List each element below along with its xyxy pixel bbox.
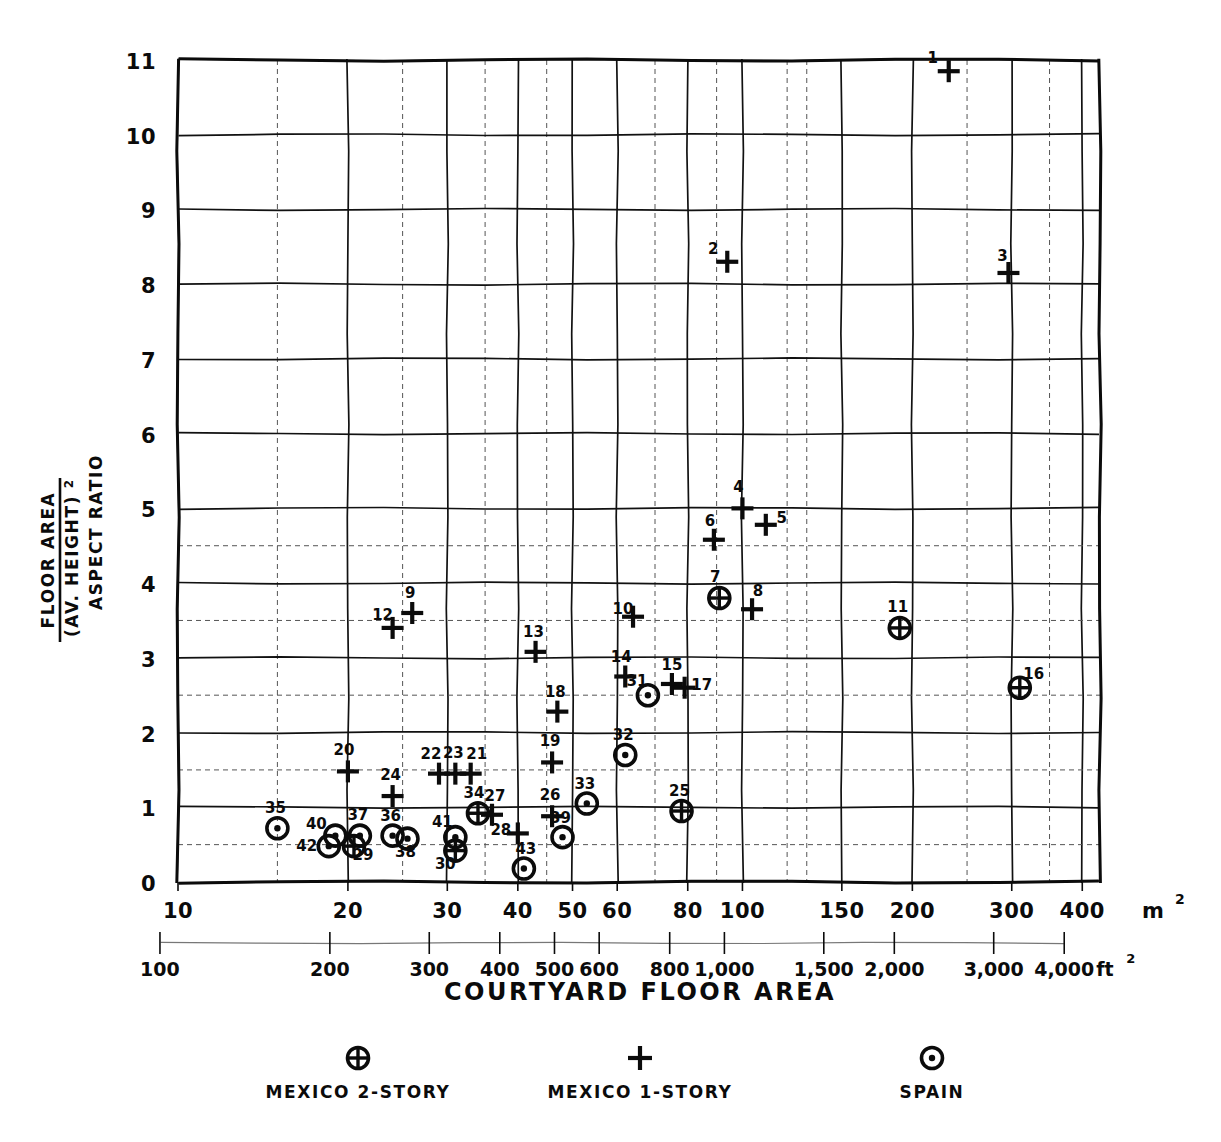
data-point-16[interactable]: 16 xyxy=(1009,665,1044,699)
y-tick-label-4: 4 xyxy=(141,573,156,597)
data-point-label-38: 38 xyxy=(395,843,416,861)
x-tick-label-60: 60 xyxy=(602,899,632,923)
data-point-label-6: 6 xyxy=(705,512,715,530)
ft2-tick-label-1000: 1,000 xyxy=(694,958,754,980)
data-point-35[interactable]: 35 xyxy=(265,799,288,839)
axis-line-left xyxy=(177,59,179,883)
ft2-tick-label-500: 500 xyxy=(535,958,575,980)
data-point-label-22: 22 xyxy=(421,745,442,763)
legend-entry-spain[interactable]: SPAIN xyxy=(900,1048,965,1103)
y-title-denominator: (AV. HEIGHT) xyxy=(62,495,82,637)
y-gridline-9 xyxy=(179,209,1100,211)
x-axis-title-text: COURTYARD FLOOR AREA xyxy=(444,978,836,1006)
dotted-circle-marker xyxy=(389,832,395,838)
data-point-23[interactable]: 23 xyxy=(443,744,466,785)
ft2-tick-label-400: 400 xyxy=(480,958,520,980)
data-point-label-20: 20 xyxy=(333,741,354,759)
data-point-20[interactable]: 20 xyxy=(333,741,358,782)
scatter-plot: 01234567891011 1020304050608010015020030… xyxy=(0,0,1221,1142)
data-point-label-17: 17 xyxy=(691,676,712,694)
y-tick-label-2: 2 xyxy=(141,723,156,747)
ft2-tick-label-600: 600 xyxy=(579,958,619,980)
legend-entry-mexico-2-story[interactable]: MEXICO 2-STORY xyxy=(266,1048,451,1103)
svg-text:2: 2 xyxy=(1175,891,1185,907)
data-point-43[interactable]: 43 xyxy=(513,840,536,880)
grid-layer xyxy=(177,59,1100,883)
y-tick-label-7: 7 xyxy=(141,349,156,373)
svg-text:ft: ft xyxy=(1096,958,1113,980)
data-point-label-10: 10 xyxy=(613,600,634,618)
y-gridline-2 xyxy=(179,732,1100,734)
y-tick-label-6: 6 xyxy=(141,424,156,448)
data-point-39[interactable]: 39 xyxy=(550,809,573,848)
data-point-label-39: 39 xyxy=(550,809,571,827)
dotted-circle-marker xyxy=(357,832,363,838)
y-gridline-10 xyxy=(179,134,1100,136)
data-point-19[interactable]: 19 xyxy=(540,732,563,773)
axis-line-right xyxy=(1099,59,1101,883)
data-point-label-33: 33 xyxy=(574,775,595,793)
data-point-7[interactable]: 7 xyxy=(709,568,730,609)
data-point-24[interactable]: 24 xyxy=(380,766,403,807)
y-gridline-4 xyxy=(179,582,1100,584)
x-gridline-100 xyxy=(741,59,743,883)
data-point-label-40: 40 xyxy=(306,815,327,833)
legend-entry-mexico-1-story[interactable]: MEXICO 1-STORY xyxy=(548,1046,733,1102)
data-point-8[interactable]: 8 xyxy=(741,582,763,620)
axis-line-bottom xyxy=(179,881,1099,883)
data-point-12[interactable]: 12 xyxy=(372,606,403,639)
legend-label-text: MEXICO 1-STORY xyxy=(548,1082,733,1102)
data-point-label-11: 11 xyxy=(887,598,908,616)
data-point-11[interactable]: 11 xyxy=(887,598,910,639)
data-point-3[interactable]: 3 xyxy=(997,247,1019,284)
data-point-2[interactable]: 2 xyxy=(708,240,738,273)
data-point-label-23: 23 xyxy=(443,744,464,762)
x-axis-ticks-ft2: 1002003004005006008001,0001,5002,0003,00… xyxy=(140,932,1135,980)
y-title-denominator-exponent: 2 xyxy=(62,480,76,488)
data-point-31[interactable]: 31 xyxy=(626,672,658,706)
data-point-label-30: 30 xyxy=(435,855,456,873)
legend-label-text: SPAIN xyxy=(900,1082,965,1102)
y-gridline-8 xyxy=(179,283,1100,285)
y-gridline-3 xyxy=(179,657,1100,659)
data-point-4[interactable]: 4 xyxy=(731,478,753,519)
data-point-label-16: 16 xyxy=(1023,665,1044,683)
dotted-circle-marker xyxy=(452,834,458,840)
x-axis-title: COURTYARD FLOOR AREA xyxy=(444,978,836,1006)
data-point-18[interactable]: 18 xyxy=(545,683,568,723)
data-point-label-2: 2 xyxy=(708,240,718,258)
data-point-label-42: 42 xyxy=(296,837,317,855)
data-point-37[interactable]: 37 xyxy=(347,806,370,847)
y-tick-label-0: 0 xyxy=(141,872,156,896)
data-point-label-9: 9 xyxy=(405,584,415,602)
y-tick-label-11: 11 xyxy=(126,50,156,74)
x-tick-label-200: 200 xyxy=(890,899,935,923)
data-point-label-5: 5 xyxy=(777,509,787,527)
data-point-38[interactable]: 38 xyxy=(395,828,418,861)
y-title-aspect-ratio: ASPECT RATIO xyxy=(86,454,106,610)
data-point-13[interactable]: 13 xyxy=(523,623,546,663)
data-point-label-19: 19 xyxy=(540,732,561,750)
data-point-36[interactable]: 36 xyxy=(380,807,403,847)
y-axis-title: FLOOR AREA(AV. HEIGHT)2ASPECT RATIO xyxy=(38,454,106,642)
x-gridline-300 xyxy=(1011,59,1013,883)
data-point-label-15: 15 xyxy=(661,656,682,674)
data-point-6[interactable]: 6 xyxy=(703,512,725,551)
data-point-label-36: 36 xyxy=(380,807,401,825)
data-point-label-28: 28 xyxy=(490,821,511,839)
x-tick-label-40: 40 xyxy=(503,899,533,923)
legend-label-text: MEXICO 2-STORY xyxy=(266,1082,451,1102)
data-point-1[interactable]: 1 xyxy=(928,49,960,82)
y-tick-label-3: 3 xyxy=(141,648,156,672)
x-gridline-200 xyxy=(911,59,913,883)
data-point-9[interactable]: 9 xyxy=(401,584,423,624)
ft2-tick-label-300: 300 xyxy=(409,958,449,980)
data-point-label-1: 1 xyxy=(928,49,938,67)
x-tick-label-80: 80 xyxy=(673,899,703,923)
data-point-5[interactable]: 5 xyxy=(755,509,787,536)
data-point-label-31: 31 xyxy=(626,672,647,690)
data-point-33[interactable]: 33 xyxy=(574,775,597,815)
svg-text:m: m xyxy=(1142,899,1164,923)
x-tick-label-100: 100 xyxy=(720,899,765,923)
chart-canvas: 01234567891011 1020304050608010015020030… xyxy=(0,0,1221,1142)
